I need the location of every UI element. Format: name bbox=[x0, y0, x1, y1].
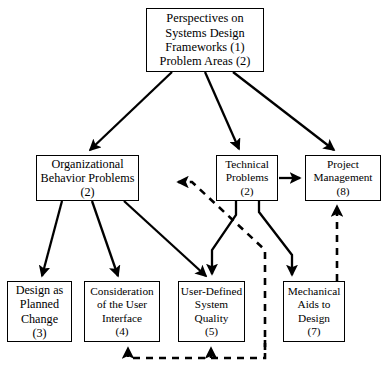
node-mechanical-line-4: (7) bbox=[307, 325, 320, 338]
node-root-line-2: Systems Design bbox=[165, 26, 245, 40]
edge-root-to-project bbox=[233, 72, 334, 150]
node-organizational-behavior-problems[interactable]: Organizational Behavior Problems (2) bbox=[36, 155, 139, 201]
node-mechanical-aids-to-design[interactable]: Mechanical Aids to Design (7) bbox=[283, 281, 345, 342]
node-organizational-line-3: (2) bbox=[80, 185, 94, 199]
node-quality-line-3: Quality bbox=[195, 312, 229, 325]
node-consideration-of-user-interface[interactable]: Consideration of the User Interface (4) bbox=[84, 281, 160, 342]
node-technical-line-3: (2) bbox=[240, 185, 253, 198]
edge-feedback-bus-left bbox=[128, 340, 265, 358]
node-design-line-3: Change bbox=[21, 312, 58, 326]
node-organizational-line-1: Organizational bbox=[51, 157, 123, 171]
node-root[interactable]: Perspectives on Systems Design Framework… bbox=[146, 8, 264, 72]
node-root-line-1: Perspectives on bbox=[166, 11, 243, 25]
node-interface-line-4: (4) bbox=[115, 325, 128, 338]
node-design-as-planned-change[interactable]: Design as Planned Change (3) bbox=[7, 281, 72, 342]
node-interface-line-3: Interface bbox=[102, 312, 142, 325]
node-design-line-2: Planned bbox=[20, 297, 59, 311]
node-project-line-3: (8) bbox=[336, 185, 349, 198]
node-interface-line-1: Consideration bbox=[90, 285, 153, 298]
node-technical-line-2: Problems bbox=[226, 171, 269, 184]
node-project-line-2: Management bbox=[314, 171, 373, 184]
diagram-canvas: Perspectives on Systems Design Framework… bbox=[0, 0, 385, 380]
node-mechanical-line-2: Aids to bbox=[298, 298, 331, 311]
node-project-line-1: Project bbox=[327, 158, 359, 171]
node-technical-line-1: Technical bbox=[225, 158, 269, 171]
node-user-defined-system-quality[interactable]: User-Defined System Quality (5) bbox=[178, 281, 245, 342]
node-mechanical-line-1: Mechanical bbox=[288, 285, 341, 298]
edge-organizational-to-design bbox=[42, 201, 62, 276]
node-root-line-3: Frameworks (1) bbox=[165, 40, 245, 54]
node-project-management[interactable]: Project Management (8) bbox=[305, 155, 381, 201]
edge-technical-to-quality bbox=[212, 201, 236, 274]
node-interface-line-2: of the User bbox=[97, 298, 147, 311]
edge-root-to-organizational bbox=[90, 72, 172, 150]
edge-root-to-technical bbox=[205, 72, 239, 149]
node-root-line-4: Problem Areas (2) bbox=[160, 54, 251, 68]
edge-organizational-to-interface bbox=[92, 201, 118, 276]
node-mechanical-line-3: Design bbox=[298, 312, 330, 325]
edge-technical-to-mechanical bbox=[259, 201, 292, 275]
node-quality-line-2: System bbox=[195, 298, 228, 311]
node-technical-problems[interactable]: Technical Problems (2) bbox=[216, 155, 278, 201]
node-organizational-line-2: Behavior Problems bbox=[41, 171, 135, 185]
node-design-line-1: Design as bbox=[16, 283, 64, 297]
node-quality-line-4: (5) bbox=[205, 325, 218, 338]
edge-organizational-to-quality bbox=[124, 201, 206, 276]
node-design-line-4: (3) bbox=[32, 326, 46, 340]
node-quality-line-1: User-Defined bbox=[181, 285, 242, 298]
